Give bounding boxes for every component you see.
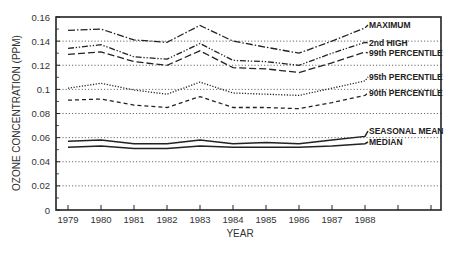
- y-axis-title: OZONE CONCENTRATION (PPM): [11, 35, 22, 191]
- series-line-median: [68, 142, 368, 149]
- series-line-seasonal-mean: [68, 131, 368, 144]
- series-labels: MAXIMUM2nd HIGH99th PERCENTILE95th PERCE…: [369, 20, 443, 147]
- series-line-2nd-high: [68, 42, 368, 65]
- series-label: MAXIMUM: [369, 20, 411, 30]
- series-label: 2nd HIGH: [369, 38, 408, 48]
- series-line-99th-percentile: [68, 51, 368, 73]
- y-tick-label: 0.08: [32, 108, 51, 119]
- x-tick-label: 1984: [222, 214, 243, 225]
- x-tick-label: 1986: [288, 214, 309, 225]
- x-tick-label: 1983: [189, 214, 210, 225]
- y-tick-label: 0.02: [32, 180, 51, 191]
- x-axis-title: YEAR: [226, 228, 253, 239]
- x-tick-label: 1985: [255, 214, 276, 225]
- series-label: MEDIAN: [369, 137, 403, 147]
- x-tick-label: 1979: [57, 214, 78, 225]
- series-label: 90th PERCENTILE: [369, 88, 443, 98]
- y-tick-label: 0.1: [37, 84, 50, 95]
- y-tick-label: 0.14: [32, 36, 51, 47]
- x-tick-label: 1988: [354, 214, 375, 225]
- x-tick-label: 1982: [156, 214, 177, 225]
- series-label: 95th PERCENTILE: [369, 72, 443, 82]
- x-axis: 1979198019811982198319841985198619871988: [57, 205, 431, 225]
- series-label: 99th PERCENTILE: [369, 48, 443, 58]
- x-tick-label: 1980: [90, 214, 111, 225]
- y-tick-label: 0: [45, 205, 50, 216]
- ozone-line-chart: 00.020.040.060.080.10.120.140.16 1979198…: [0, 0, 455, 254]
- y-tick-label: 0.16: [32, 12, 51, 23]
- x-tick-label: 1987: [321, 214, 342, 225]
- series-line-95th-percentile: [68, 77, 368, 95]
- y-tick-label: 0.04: [32, 156, 51, 167]
- x-tick-label: 1981: [123, 214, 144, 225]
- series-label: SEASONAL MEAN: [369, 126, 443, 136]
- gridlines: [56, 41, 441, 186]
- series-line-90th-percentile: [68, 93, 368, 109]
- y-tick-label: 0.06: [32, 132, 51, 143]
- series-lines: [68, 25, 368, 149]
- y-tick-label: 0.12: [32, 60, 51, 71]
